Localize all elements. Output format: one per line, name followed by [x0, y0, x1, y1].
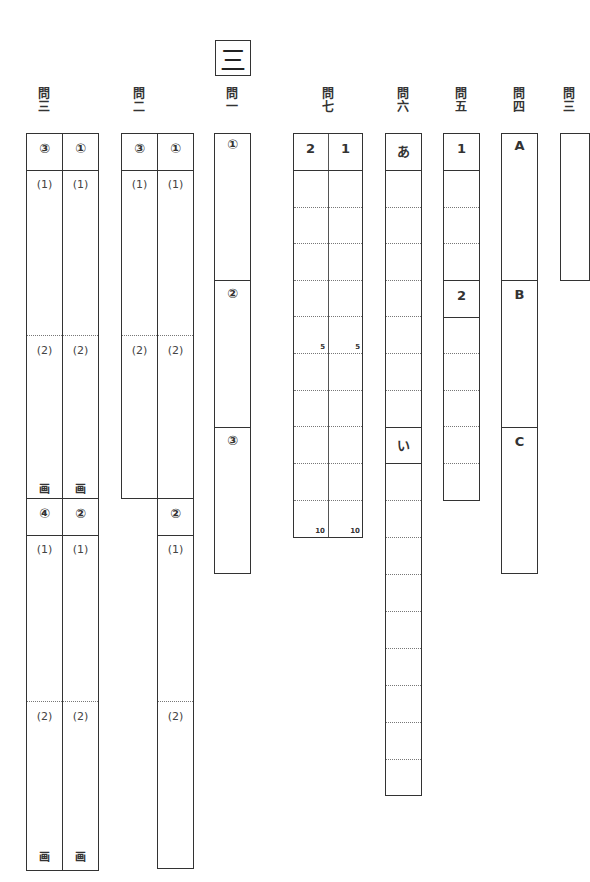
q2-header-1: ① [157, 133, 194, 170]
part-label: (1) [157, 543, 194, 556]
q2-header-2: ② [157, 498, 194, 535]
part-label: (2) [26, 710, 63, 723]
q5-part-2: 2 [443, 280, 480, 317]
question-label-2: 問 二 [124, 88, 154, 114]
row-marker-10: 10 [328, 527, 360, 535]
q2-header-3: ③ [121, 133, 158, 170]
part-label: (1) [26, 178, 63, 191]
q3-header-4: ④ [26, 498, 63, 535]
q7-column-1-header: 1 [328, 133, 363, 170]
column-divider [328, 134, 329, 537]
drawing-mark: 画 [62, 480, 99, 496]
dotted-divider [386, 574, 421, 575]
part-label: (1) [157, 178, 194, 191]
part-label: (1) [121, 178, 158, 191]
question-label-1: 問 一 [217, 88, 247, 114]
part-label: (1) [62, 543, 99, 556]
question-label-6: 問 六 [388, 88, 418, 114]
dotted-divider [294, 500, 362, 501]
dotted-divider [294, 316, 362, 317]
divider [293, 170, 363, 171]
divider [121, 170, 194, 171]
dotted-divider [294, 463, 362, 464]
question-label-3: 問 三 [29, 88, 59, 114]
row-marker-5: 5 [328, 343, 360, 351]
q7-column-2-header: 2 [293, 133, 328, 170]
q3-header-1: ① [62, 133, 99, 170]
q4-part-c: C [501, 427, 538, 457]
label-bottom: 七 [313, 101, 343, 114]
q1-part-2: ② [214, 280, 251, 310]
part-label: (1) [26, 543, 63, 556]
dotted-divider [386, 280, 421, 281]
part-label: (2) [157, 344, 194, 357]
dotted-divider [386, 759, 421, 760]
part-label: (1) [62, 178, 99, 191]
divider [26, 170, 99, 171]
row-marker-5: 5 [293, 343, 325, 351]
divider [443, 317, 480, 318]
section-number: 三 [220, 40, 246, 77]
q3-header-2: ② [62, 498, 99, 535]
dotted-divider [386, 722, 421, 723]
dotted-divider [386, 685, 421, 686]
part-label: (2) [62, 710, 99, 723]
dotted-divider [386, 648, 421, 649]
dotted-divider [386, 316, 421, 317]
part-label: (2) [121, 344, 158, 357]
part-label: (2) [157, 710, 194, 723]
label-bottom: 五 [446, 101, 476, 114]
dotted-divider [386, 207, 421, 208]
dotted-divider [444, 353, 479, 354]
drawing-mark: 画 [26, 480, 63, 496]
label-bottom: 三 [29, 101, 59, 114]
q4-part-a: A [501, 133, 538, 163]
section-number-box: 三 [215, 40, 251, 76]
question-label-3-partial: 問 三 [563, 88, 583, 114]
q4-answer-column[interactable] [501, 133, 538, 574]
dotted-divider [294, 353, 362, 354]
divider [385, 463, 422, 464]
dotted-divider [444, 390, 479, 391]
label-bottom: 二 [124, 101, 154, 114]
drawing-mark: 画 [62, 848, 99, 864]
divider [157, 535, 194, 536]
dotted-divider [122, 335, 193, 336]
dotted-divider [27, 335, 98, 336]
label-bottom: 四 [504, 101, 534, 114]
dotted-divider [294, 426, 362, 427]
part-label: (2) [62, 344, 99, 357]
dotted-divider [444, 243, 479, 244]
dotted-divider [386, 537, 421, 538]
dotted-divider [386, 243, 421, 244]
question-label-4: 問 四 [504, 88, 534, 114]
dotted-divider [158, 701, 193, 702]
question-label-5: 問 五 [446, 88, 476, 114]
divider [26, 535, 99, 536]
q6-answer-column[interactable] [385, 133, 422, 796]
q3-partial-answer-column[interactable] [560, 133, 590, 281]
q5-part-1: 1 [443, 133, 480, 170]
drawing-mark: 画 [26, 848, 63, 864]
q1-answer-column[interactable] [214, 133, 251, 574]
row-marker-10: 10 [293, 527, 325, 535]
divider [385, 170, 422, 171]
dotted-divider [294, 207, 362, 208]
dotted-divider [294, 243, 362, 244]
dotted-divider [386, 390, 421, 391]
label-bottom: 三 [563, 101, 583, 114]
dotted-divider [444, 426, 479, 427]
dotted-divider [386, 353, 421, 354]
q1-part-3: ③ [214, 427, 251, 457]
question-label-7: 問 七 [313, 88, 343, 114]
dotted-divider [444, 463, 479, 464]
label-bottom: 六 [388, 101, 418, 114]
q4-part-b: B [501, 280, 538, 310]
dotted-divider [27, 701, 98, 702]
dotted-divider [386, 500, 421, 501]
q3-header-3: ③ [26, 133, 63, 170]
q6-part-a: あ [385, 133, 422, 170]
q6-part-i: い [385, 427, 422, 463]
q1-part-1: ① [214, 133, 251, 163]
dotted-divider [386, 611, 421, 612]
